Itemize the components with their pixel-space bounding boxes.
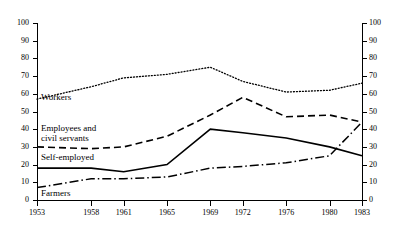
- series-label-employees-line1: Employees and: [41, 123, 96, 133]
- series-label-self-employed: Self-employed: [41, 152, 94, 162]
- series-label-employees-and-civil-servants: Employees and civil servants: [41, 123, 96, 143]
- series-line-workers: [37, 67, 362, 99]
- plot-area: [0, 0, 400, 239]
- series-label-employees-line2: civil servants: [41, 133, 96, 143]
- series-label-farmers: Farmers: [41, 188, 71, 198]
- series-label-workers: Workers: [41, 92, 71, 102]
- line-chart: 1009080706050403020100 10090807060504030…: [0, 0, 400, 239]
